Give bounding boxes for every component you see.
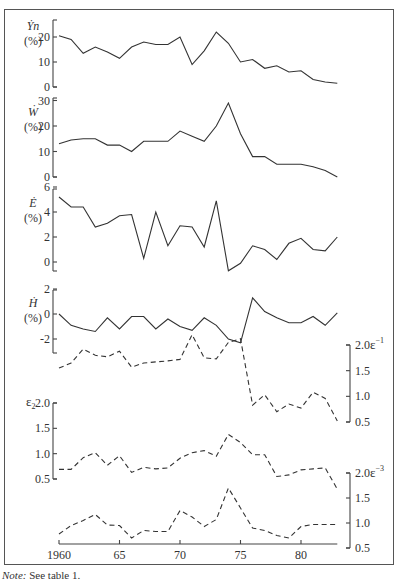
panel-eps_minus3: 0.51.01.52.0ε−3 [59, 464, 384, 555]
y-tick-label: 0 [44, 80, 50, 94]
y-tick-label: 2.0 [355, 338, 370, 352]
series-line-W [59, 103, 337, 177]
y-tick-label: 1.5 [355, 491, 370, 505]
y-tick-label: 4 [44, 205, 50, 219]
y-tick-label: 2.0 [355, 466, 370, 480]
y-tick-label: 0.5 [355, 541, 370, 555]
y-axis-label-var: Ẇ [28, 104, 39, 119]
y-tick-label: 10 [38, 55, 50, 69]
note-text: See table 1. [26, 569, 80, 581]
panel-eps_minus1: 0.51.01.52.0ε−1 [59, 335, 384, 429]
series-line-eps_minus1 [59, 335, 337, 421]
figure-note: Note: See table 1. [2, 569, 80, 581]
y-axis-label-var: Ė [28, 196, 37, 210]
y-tick-label: 1.0 [355, 516, 370, 530]
y-axis-label-var: Ḣ [28, 296, 39, 310]
x-tick-label: 65 [114, 548, 126, 562]
panel-H: -202Ḣ(%) [24, 282, 337, 353]
panel-Yn: 01020Ẏn(%) [24, 19, 337, 94]
y-axis-label-unit: (%) [24, 211, 42, 225]
y-axis-label-unit: (%) [24, 34, 42, 48]
note-prefix: Note: [2, 569, 26, 581]
y-tick-label: 0 [44, 307, 50, 321]
y-tick-label: 1.5 [35, 421, 50, 435]
y-axis-label-unit: (%) [24, 311, 42, 325]
y-tick-label: 1.0 [355, 389, 370, 403]
panel-E: 0246Ė(%) [24, 180, 337, 271]
y-tick-label: 2 [44, 230, 50, 244]
panel-W: 0102030Ẇ(%) [24, 94, 337, 185]
panel-eps_2: 0.51.01.52.0ε2 [26, 394, 337, 489]
y-tick-label: 1.0 [35, 447, 50, 461]
series-line-E [59, 197, 337, 271]
y-tick-label: 0.5 [35, 472, 50, 486]
y-tick-label: 2 [44, 282, 50, 296]
x-axis: 196065707580 [47, 540, 337, 562]
x-tick-label: 70 [174, 548, 186, 562]
y-tick-label: 0 [44, 255, 50, 269]
x-tick-label: 75 [235, 548, 247, 562]
y-tick-label: 30 [38, 94, 50, 108]
figure: 01020Ẏn(%)0102030Ẇ(%)0246Ė(%)-202Ḣ(%)0.5… [0, 0, 398, 583]
y-axis-label: ε−3 [370, 464, 384, 480]
y-tick-label: 10 [38, 145, 50, 159]
x-tick-label: 1960 [47, 548, 71, 562]
series-line-eps_2 [59, 434, 337, 489]
y-tick-label: -2 [40, 332, 50, 346]
y-tick-label: 0.5 [355, 415, 370, 429]
y-axis-label-var: Ẏn [27, 19, 40, 33]
series-line-eps_minus3 [59, 488, 337, 538]
chart-svg: 01020Ẏn(%)0102030Ẇ(%)0246Ė(%)-202Ḣ(%)0.5… [0, 0, 398, 583]
y-tick-label: 1.5 [355, 364, 370, 378]
series-line-Yn [59, 32, 337, 83]
y-axis-label: ε−1 [370, 336, 384, 352]
series-line-H [59, 298, 337, 343]
x-tick-label: 80 [295, 548, 307, 562]
y-tick-label: 2.0 [35, 396, 50, 410]
y-tick-label: 6 [44, 180, 50, 194]
y-axis-label-unit: (%) [24, 120, 42, 134]
